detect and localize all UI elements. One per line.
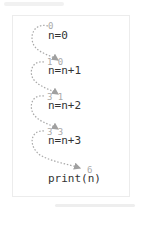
statement-2: n=n+2 xyxy=(48,100,81,112)
faint-caption-bottom xyxy=(55,204,135,207)
statement-3: n=n+3 xyxy=(48,135,81,147)
statement-0: n=0 xyxy=(48,30,68,42)
statement-4: print(n) xyxy=(48,173,101,185)
statement-1: n=n+1 xyxy=(48,65,81,77)
